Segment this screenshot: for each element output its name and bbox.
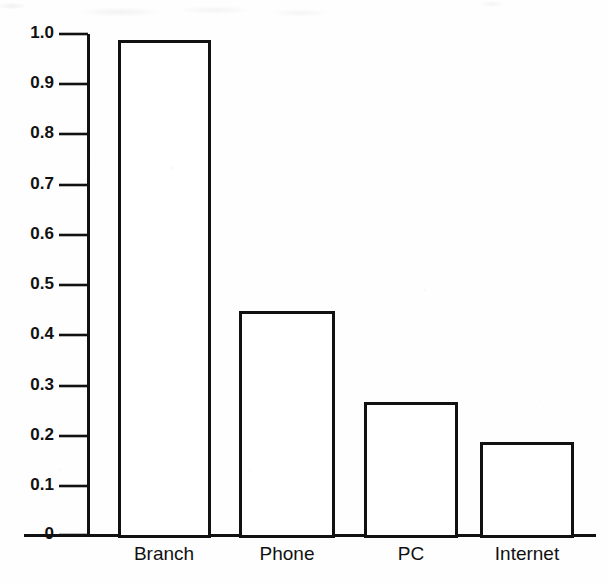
y-tick-label-0.6: 0.6 <box>30 224 54 243</box>
y-tick-label-1.0: 1.0 <box>30 23 54 42</box>
bar-phone[interactable] <box>241 313 334 537</box>
y-tick-label-0: 0 <box>45 524 54 543</box>
y-axis-ticks <box>59 34 88 535</box>
y-tick-label-0.7: 0.7 <box>30 174 54 193</box>
y-tick-label-0.1: 0.1 <box>30 475 54 494</box>
y-axis-tick-labels: 1.0 0.9 0.8 0.7 0.6 0.5 0.4 0.3 0.2 0.1 … <box>30 23 54 543</box>
x-tick-label-branch: Branch <box>134 543 194 564</box>
bar-pc[interactable] <box>366 404 457 537</box>
chart-page: 1.0 0.9 0.8 0.7 0.6 0.5 0.4 0.3 0.2 0.1 … <box>0 0 607 585</box>
y-tick-label-0.9: 0.9 <box>30 73 54 92</box>
x-tick-label-phone: Phone <box>260 543 315 564</box>
y-tick-label-0.3: 0.3 <box>30 375 54 394</box>
bar-chart: 1.0 0.9 0.8 0.7 0.6 0.5 0.4 0.3 0.2 0.1 … <box>0 0 607 585</box>
bar-internet[interactable] <box>482 444 573 537</box>
y-tick-label-0.2: 0.2 <box>30 425 54 444</box>
bar-branch[interactable] <box>120 42 210 537</box>
y-tick-label-0.8: 0.8 <box>30 123 54 142</box>
y-tick-label-0.4: 0.4 <box>30 324 54 343</box>
bar-series <box>120 42 573 537</box>
x-tick-label-internet: Internet <box>495 543 560 564</box>
x-tick-label-pc: PC <box>398 543 424 564</box>
x-axis-tick-labels: Branch Phone PC Internet <box>134 543 560 564</box>
y-tick-label-0.5: 0.5 <box>30 274 54 293</box>
